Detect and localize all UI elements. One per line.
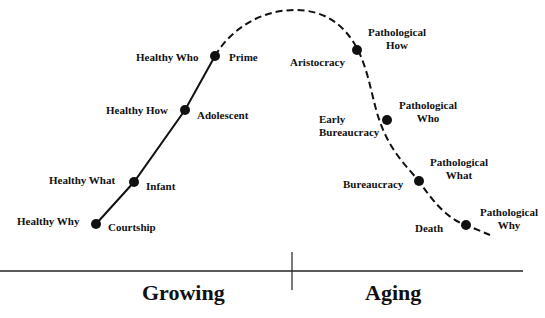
point-adolescent	[180, 105, 190, 115]
label-prime: Prime	[229, 51, 258, 64]
label-healthy-what: Healthy What	[49, 174, 115, 187]
point-courtship	[91, 219, 101, 229]
label-adolescent: Adolescent	[197, 109, 248, 122]
point-infant	[129, 177, 139, 187]
label-healthy-who: Healthy Who	[136, 51, 198, 64]
label-bureaucracy: Bureaucracy	[343, 178, 403, 191]
point-prime	[210, 51, 220, 61]
label-pathological-why: Pathological Why	[469, 206, 545, 232]
label-infant: Infant	[146, 180, 175, 193]
label-death: Death	[415, 222, 443, 235]
axis-label-growing: Growing	[142, 280, 225, 306]
label-early-bureaucracy: Early Bureaucracy	[319, 113, 379, 139]
label-pathological-how: Pathological How	[357, 26, 437, 52]
label-courtship: Courtship	[108, 221, 156, 234]
label-healthy-how: Healthy How	[106, 104, 168, 117]
label-pathological-who: Pathological Who	[388, 99, 468, 125]
label-healthy-why: Healthy Why	[17, 215, 79, 228]
label-pathological-what: Pathological What	[419, 156, 499, 182]
label-aristocracy: Aristocracy	[290, 56, 345, 69]
axis-label-aging: Aging	[365, 280, 421, 306]
